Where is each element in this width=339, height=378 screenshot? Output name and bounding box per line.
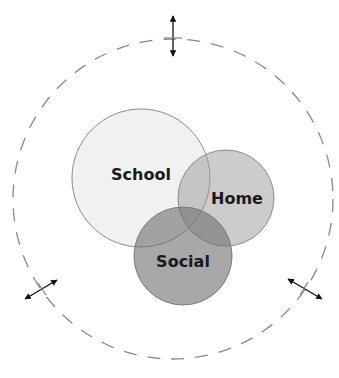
- double-arrow-icon-top: [164, 16, 182, 56]
- school-label: School: [111, 165, 171, 184]
- home-label: Home: [211, 189, 263, 208]
- social-label: Social: [156, 252, 210, 271]
- venn-diagram: School Home Social: [0, 0, 339, 378]
- double-arrow-icon-bottom-left: [25, 280, 57, 299]
- double-arrow-icon-bottom-right: [288, 279, 322, 299]
